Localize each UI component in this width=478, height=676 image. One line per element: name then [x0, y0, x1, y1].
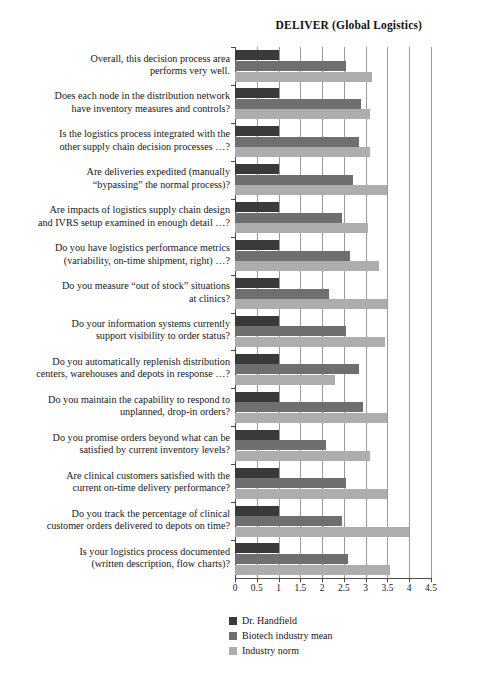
bar	[235, 354, 279, 364]
y-axis-tick	[231, 161, 235, 162]
bar	[235, 516, 342, 526]
category-label: Do you maintain the capability to respon…	[8, 394, 230, 419]
category-label-line: Do you automatically replenish distribut…	[8, 356, 230, 368]
y-axis-tick	[231, 275, 235, 276]
gridline	[431, 47, 432, 578]
bar	[235, 251, 350, 261]
bar	[235, 543, 279, 553]
bar	[235, 99, 361, 109]
bar	[235, 147, 370, 157]
bar	[235, 364, 359, 374]
category-label: Overall, this decision process areaperfo…	[8, 53, 230, 78]
category-label-line: Do you track the percentage of clinical	[8, 508, 230, 520]
category-label: Does each node in the distribution netwo…	[8, 90, 230, 115]
bar	[235, 451, 370, 461]
y-axis-tick	[231, 350, 235, 351]
bar	[235, 430, 279, 440]
y-axis-tick	[231, 123, 235, 124]
gridline	[409, 47, 410, 578]
x-axis-tick	[366, 578, 367, 582]
category-label: Do you have logistics performance metric…	[8, 242, 230, 267]
bar	[235, 527, 409, 537]
category-label-line: Do you measure “out of stock” situations	[8, 280, 230, 292]
bar	[235, 175, 353, 185]
category-label-line: Is the logistics process integrated with…	[8, 128, 230, 140]
chart-title: DELIVER (Global Logistics)	[0, 19, 470, 31]
bar	[235, 223, 368, 233]
x-axis-tick-label: 4.5	[425, 583, 437, 593]
y-axis-tick	[231, 85, 235, 86]
bar	[235, 109, 370, 119]
chart-legend: Dr. HandfieldBiotech industry meanIndust…	[229, 613, 333, 658]
bar	[235, 565, 390, 575]
x-axis-tick-label: 1	[276, 583, 281, 593]
category-label-line: at clinics?	[8, 293, 230, 305]
bar	[235, 326, 346, 336]
bar	[235, 164, 279, 174]
category-label-line: Do you promise orders beyond what can be	[8, 432, 230, 444]
category-label-line: current on-time delivery performance?	[8, 482, 230, 494]
y-axis-tick	[231, 388, 235, 389]
y-axis-tick	[231, 199, 235, 200]
legend-swatch	[229, 617, 237, 625]
bar	[235, 261, 379, 271]
legend-label: Biotech industry mean	[242, 630, 333, 641]
x-axis-tick-label: 2	[320, 583, 325, 593]
bar	[235, 50, 279, 60]
category-label: Do you measure “out of stock” situations…	[8, 280, 230, 305]
category-label-line: unplanned, drop-in orders?	[8, 406, 230, 418]
category-label: Are deliveries expedited (manually“bypas…	[8, 166, 230, 191]
category-label-line: satisfied by current inventory levels?	[8, 444, 230, 456]
category-label-line: Does each node in the distribution netwo…	[8, 90, 230, 102]
category-label-line: other supply chain decision processes …?	[8, 141, 230, 153]
bar	[235, 289, 329, 299]
category-label-line: Are deliveries expedited (manually	[8, 166, 230, 178]
x-axis-tick	[279, 578, 280, 582]
bar	[235, 375, 335, 385]
category-label: Are impacts of logistics supply chain de…	[8, 204, 230, 229]
y-axis-tick	[231, 237, 235, 238]
legend-item: Industry norm	[229, 643, 333, 658]
x-axis-tick-label: 0.5	[251, 583, 263, 593]
bar	[235, 88, 279, 98]
gridline	[387, 47, 388, 578]
category-label-line: Do your information systems currently	[8, 318, 230, 330]
bar	[235, 506, 279, 516]
category-label-line: and IVRS setup examined in enough detail…	[8, 217, 230, 229]
category-label-line: performs very well.	[8, 65, 230, 77]
legend-swatch	[229, 647, 237, 655]
x-axis-line	[235, 578, 432, 579]
category-label-line: Are clinical customers satisfied with th…	[8, 470, 230, 482]
y-axis-tick	[231, 313, 235, 314]
category-label: Are clinical customers satisfied with th…	[8, 470, 230, 495]
bar	[235, 402, 363, 412]
legend-swatch	[229, 632, 237, 640]
category-label-line: centers, warehouses and depots in respon…	[8, 368, 230, 380]
chart-root: DELIVER (Global Logistics) 00.511.522.53…	[0, 0, 478, 676]
x-axis-tick	[409, 578, 410, 582]
y-axis-tick	[231, 426, 235, 427]
category-label: Do you track the percentage of clinicalc…	[8, 508, 230, 533]
category-label: Is your logistics process documented(wri…	[8, 546, 230, 571]
bar	[235, 468, 279, 478]
bar	[235, 185, 387, 195]
category-label-line: Are impacts of logistics supply chain de…	[8, 204, 230, 216]
x-axis-tick-label: 4	[407, 583, 412, 593]
y-axis-tick	[231, 502, 235, 503]
bar	[235, 126, 279, 136]
category-label-line: Do you maintain the capability to respon…	[8, 394, 230, 406]
y-axis-tick	[231, 540, 235, 541]
legend-item: Biotech industry mean	[229, 628, 333, 643]
x-axis-tick	[431, 578, 432, 582]
legend-label: Industry norm	[242, 645, 299, 656]
bar	[235, 72, 372, 82]
bar	[235, 202, 279, 212]
bar	[235, 213, 342, 223]
legend-item: Dr. Handfield	[229, 613, 333, 628]
bar	[235, 478, 346, 488]
category-label-line: Overall, this decision process area	[8, 53, 230, 65]
legend-label: Dr. Handfield	[242, 615, 297, 626]
bar	[235, 554, 348, 564]
category-label-line: support visibility to order status?	[8, 330, 230, 342]
x-axis-tick-label: 3	[363, 583, 368, 593]
